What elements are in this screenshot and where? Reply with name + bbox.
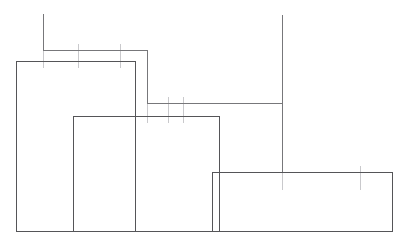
tall-left-block xyxy=(16,61,135,231)
middle-block xyxy=(73,116,219,231)
upper-left-dimension-polyline xyxy=(43,14,282,103)
tick-mark-group xyxy=(43,44,360,190)
dimension-line-group xyxy=(43,14,360,172)
line-drawing-svg xyxy=(0,0,407,247)
profile-outline-group xyxy=(16,61,392,231)
right-dimension-polyline xyxy=(282,15,360,172)
drawing-canvas xyxy=(0,0,407,247)
low-right-block xyxy=(212,172,392,231)
